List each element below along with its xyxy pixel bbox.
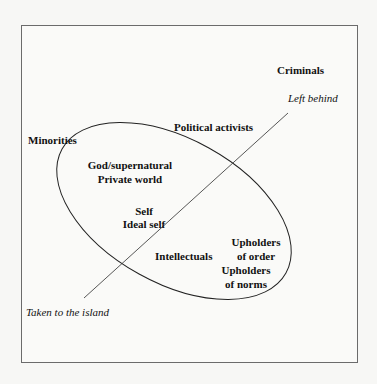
label-intellectuals: Intellectuals: [155, 250, 212, 263]
label-ideal-self: Ideal self: [114, 218, 174, 231]
diagram-geometry: [0, 0, 377, 384]
label-private-world: Private world: [80, 173, 180, 186]
label-criminals: Criminals: [277, 64, 324, 77]
label-left-behind: Left behind: [288, 92, 338, 105]
label-upholders-of-order-line2: of order: [224, 250, 288, 263]
label-upholders-of-order-line1: Upholders: [224, 236, 288, 249]
label-god-supernatural: God/supernatural: [80, 159, 180, 172]
label-minorities: Minorities: [28, 134, 77, 147]
label-political-activists: Political activists: [174, 121, 253, 134]
label-taken-to-the-island: Taken to the island: [26, 306, 109, 319]
label-upholders-of-norms-line2: of norms: [214, 278, 278, 291]
label-self: Self: [114, 205, 174, 218]
label-upholders-of-norms-line1: Upholders: [214, 264, 278, 277]
